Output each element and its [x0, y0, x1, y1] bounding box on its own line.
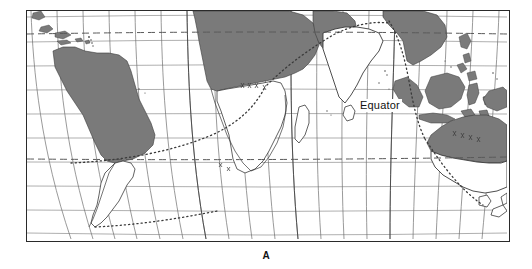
world-map-graphic [27, 11, 507, 239]
equator-label: Equator [358, 99, 402, 112]
figure-caption: A [0, 250, 532, 261]
figure-panel: Equator A [0, 0, 532, 269]
map-frame: Equator [26, 10, 510, 242]
